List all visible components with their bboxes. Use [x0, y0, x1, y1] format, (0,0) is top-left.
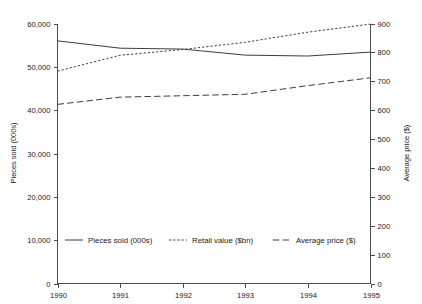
left-tick-label: 60,000: [27, 20, 50, 29]
chart-legend: Pieces sold (000s)Retail value ($bn)Aver…: [65, 236, 356, 245]
left-tick-label: 30,000: [27, 150, 50, 159]
x-tick-label: 1992: [175, 291, 192, 300]
legend-label: Pieces sold (000s): [88, 236, 153, 245]
left-tick-label: 50,000: [27, 63, 50, 72]
x-tick-label: 1994: [300, 291, 317, 300]
series-line-dotted: [58, 24, 371, 71]
left-axis-title: Pieces sold (000s): [9, 123, 18, 184]
right-tick-label: 400: [378, 164, 391, 173]
left-tick-label: 0: [46, 280, 50, 289]
right-tick-label: 800: [378, 48, 391, 57]
x-tick-label: 1991: [112, 291, 129, 300]
left-tick-label: 10,000: [27, 236, 50, 245]
data-series-group: [58, 24, 371, 104]
x-tick-label: 1993: [237, 291, 254, 300]
right-tick-label: 300: [378, 193, 391, 202]
right-tick-label: 100: [378, 251, 391, 260]
left-tick-label: 40,000: [27, 106, 50, 115]
left-tick-label: 20,000: [27, 193, 50, 202]
legend-item[interactable]: Pieces sold (000s): [65, 236, 153, 245]
x-tick-label: 1990: [50, 291, 67, 300]
legend-label: Average price ($): [296, 236, 356, 245]
right-tick-label: 0: [378, 280, 382, 289]
right-tick-label: 500: [378, 135, 391, 144]
legend-label: Retail value ($bn): [192, 236, 254, 245]
chart-container: 010,00020,00030,00040,00050,00060,000 01…: [0, 0, 422, 304]
right-tick-label: 700: [378, 77, 391, 86]
right-tick-label: 600: [378, 106, 391, 115]
right-tick-label: 900: [378, 20, 391, 29]
right-tick-label: 200: [378, 222, 391, 231]
left-axis-ticks: 010,00020,00030,00040,00050,00060,000: [27, 20, 57, 289]
line-chart: 010,00020,00030,00040,00050,00060,000 01…: [0, 0, 422, 304]
x-tick-label: 1995: [363, 291, 380, 300]
legend-item[interactable]: Retail value ($bn): [169, 236, 254, 245]
series-line-dashed: [58, 78, 371, 105]
legend-item[interactable]: Average price ($): [273, 236, 356, 245]
right-axis-ticks: 0100200300400500600700800900: [371, 20, 391, 289]
x-axis-ticks: 199019911992199319941995: [50, 284, 380, 300]
series-line-solid: [58, 41, 371, 56]
right-axis-title: Average price ($): [402, 125, 411, 182]
